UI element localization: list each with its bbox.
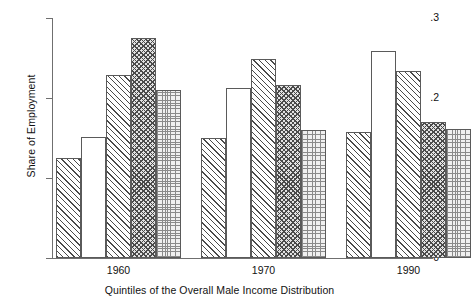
x-axis-label-1960: 1960 <box>79 264 159 276</box>
bar-1990-q1 <box>346 132 371 258</box>
y-axis-tick <box>46 98 53 99</box>
bar-1960-q1 <box>56 158 81 258</box>
x-axis-line <box>52 258 433 259</box>
bar-1960-q3 <box>106 75 131 258</box>
y-axis-line <box>52 18 53 259</box>
y-axis-tick <box>46 178 53 179</box>
bar-1990-q5 <box>446 129 471 258</box>
bar-1970-q5 <box>301 130 326 258</box>
y-axis-title: Share of Employment <box>25 36 37 216</box>
bar-1990-q4 <box>421 122 446 258</box>
x-axis-label-1970: 1970 <box>224 264 304 276</box>
bar-1990-q2 <box>371 51 396 258</box>
y-axis-tick <box>46 258 53 259</box>
y-axis-tick <box>46 18 53 19</box>
y-axis-tick-label: .3 <box>395 12 439 22</box>
x-axis-title: Quintiles of the Overall Male Income Dis… <box>0 284 439 296</box>
bar-1970-q1 <box>201 138 226 258</box>
bar-1970-q2 <box>226 88 251 258</box>
x-axis-label-1990: 1990 <box>369 264 449 276</box>
bar-1990-q3 <box>396 71 421 258</box>
bar-1960-q4 <box>131 38 156 258</box>
bar-1970-q3 <box>251 59 276 258</box>
bar-1970-q4 <box>276 85 301 258</box>
bar-1960-q2 <box>81 137 106 258</box>
bar-1960-q5 <box>156 90 181 258</box>
